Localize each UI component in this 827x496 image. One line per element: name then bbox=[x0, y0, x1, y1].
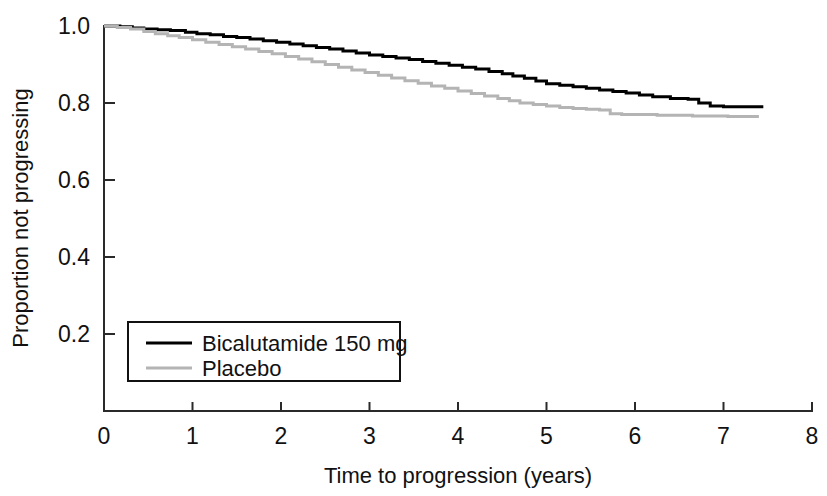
y-tick-label: 0.6 bbox=[58, 167, 90, 193]
legend-label-bicalutamide: Bicalutamide 150 mg bbox=[202, 331, 407, 356]
y-axis-title: Proportion not progressing bbox=[8, 88, 33, 347]
y-tick-label: 0.4 bbox=[58, 244, 90, 270]
y-axis-ticks: 0.20.40.60.81.0 bbox=[58, 13, 115, 347]
legend: Bicalutamide 150 mg Placebo bbox=[128, 322, 407, 381]
x-tick-label: 1 bbox=[186, 423, 199, 449]
curve-placebo bbox=[104, 26, 759, 116]
x-tick-label: 0 bbox=[98, 423, 111, 449]
x-tick-label: 8 bbox=[806, 423, 819, 449]
y-tick-label: 0.2 bbox=[58, 321, 90, 347]
curve-bicalutamide-150-mg bbox=[104, 26, 763, 107]
y-tick-label: 0.8 bbox=[58, 90, 90, 116]
y-tick-label: 1.0 bbox=[58, 13, 90, 39]
x-tick-label: 4 bbox=[452, 423, 465, 449]
survival-curve-chart: 0.20.40.60.81.0 012345678 Time to progre… bbox=[0, 0, 827, 496]
x-tick-label: 7 bbox=[717, 423, 730, 449]
curves-group bbox=[104, 26, 763, 116]
x-axis-ticks: 012345678 bbox=[98, 402, 819, 449]
kaplan-meier-figure: 0.20.40.60.81.0 012345678 Time to progre… bbox=[0, 0, 827, 496]
x-tick-label: 5 bbox=[540, 423, 553, 449]
x-tick-label: 3 bbox=[363, 423, 376, 449]
x-axis-title: Time to progression (years) bbox=[324, 463, 592, 488]
x-tick-label: 2 bbox=[275, 423, 288, 449]
x-tick-label: 6 bbox=[629, 423, 642, 449]
legend-label-placebo: Placebo bbox=[202, 356, 282, 381]
